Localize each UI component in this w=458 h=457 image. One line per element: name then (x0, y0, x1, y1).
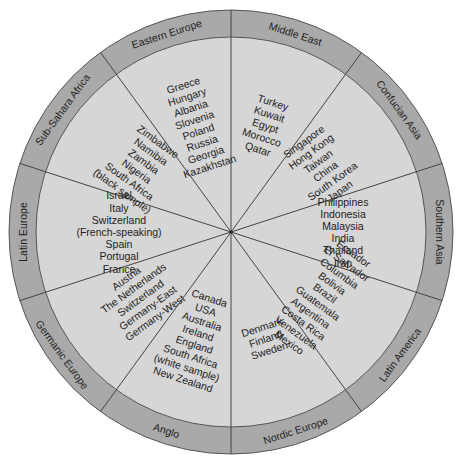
country-item: Italy (109, 202, 129, 214)
country-item: Malaysia (322, 220, 364, 232)
country-item: Switzerland (92, 214, 146, 226)
cluster-wheel: Middle EastConfucian AsiaSouthern AsiaLa… (0, 0, 458, 457)
country-item: Indonesia (320, 208, 366, 220)
country-item: Portugal (99, 250, 138, 262)
country-item: Spain (106, 238, 133, 250)
country-item: France (103, 263, 136, 275)
cluster-label-southern-asia: Southern Asia (434, 199, 446, 265)
country-item: Philippines (318, 196, 369, 208)
center-point (230, 231, 233, 234)
cluster-label-latin-europe: Latin Europe (17, 202, 29, 262)
country-item: (French-speaking) (76, 226, 161, 238)
